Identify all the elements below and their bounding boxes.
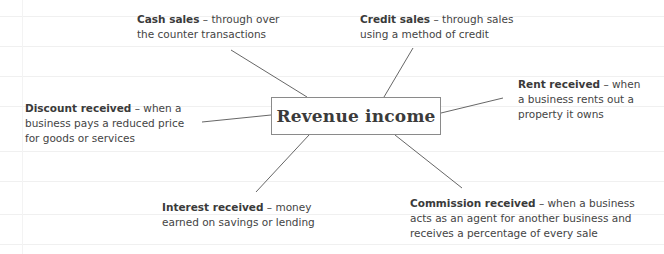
center-node-revenue-income: Revenue income (271, 97, 441, 135)
node-discount-received: Discount received – when a business pays… (25, 101, 184, 146)
node-desc: business pays a reduced price (25, 116, 184, 131)
connector-cash-sales (231, 50, 307, 97)
node-desc: money (275, 201, 311, 213)
node-commission-received: Commission received – when a business ac… (410, 196, 635, 241)
connector-credit-sales (384, 48, 413, 97)
node-desc: using a method of credit (360, 27, 513, 42)
node-title: Cash sales (137, 13, 199, 25)
node-title: Commission received (410, 197, 536, 209)
node-title: Discount received (25, 102, 131, 114)
node-interest-received: Interest received – money earned on savi… (162, 200, 315, 230)
node-desc: through sales (442, 13, 513, 25)
node-rent-received: Rent received – when a business rents ou… (518, 77, 640, 122)
connector-discount-received (202, 115, 271, 122)
node-desc: acts as an agent for another business an… (410, 211, 635, 226)
connector-commission-received (395, 135, 462, 188)
node-desc: a business rents out a (518, 92, 640, 107)
node-credit-sales: Credit sales – through sales using a met… (360, 12, 513, 42)
node-title: Interest received (162, 201, 263, 213)
node-desc: when a business (548, 197, 635, 209)
center-label: Revenue income (276, 106, 435, 126)
node-desc: property it owns (518, 107, 640, 122)
node-title: Credit sales (360, 13, 430, 25)
node-desc: for goods or services (25, 131, 184, 146)
node-desc: receives a percentage of every sale (410, 226, 635, 241)
node-desc: earned on savings or lending (162, 215, 315, 230)
node-desc: the counter transactions (137, 27, 279, 42)
node-cash-sales: Cash sales – through over the counter tr… (137, 12, 279, 42)
connector-interest-received (256, 135, 309, 192)
connector-rent-received (441, 98, 503, 113)
node-desc: when (612, 78, 640, 90)
node-desc: when a (143, 102, 181, 114)
node-title: Rent received (518, 78, 600, 90)
node-desc: through over (211, 13, 279, 25)
